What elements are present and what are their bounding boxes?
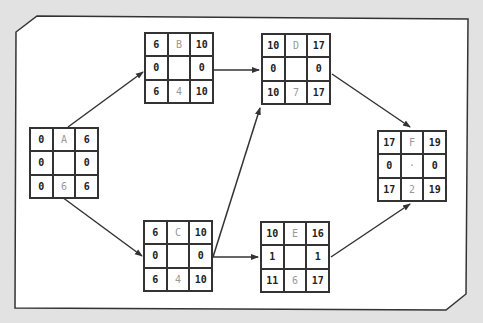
activity-name-cell: B [168, 33, 191, 56]
late-finish-cell: 10 [189, 268, 212, 291]
node-d: 10D170010717 [261, 33, 331, 105]
early-finish-cell: 10 [189, 221, 212, 244]
node-center-cell [167, 244, 190, 267]
late-finish-cell: 10 [190, 80, 213, 103]
duration-cell: 6 [284, 269, 307, 292]
arrow-e-to-f [331, 204, 410, 257]
early-finish-cell: 10 [190, 33, 213, 56]
network-diagram: 0A6000666B100064106C1000641010D170010717… [0, 0, 483, 323]
node-center-cell [285, 57, 308, 80]
late-start-cell: 11 [261, 269, 284, 292]
late-finish-cell: 17 [307, 81, 330, 104]
early-start-cell: 6 [145, 33, 168, 56]
total-slack-left-cell: 0 [145, 56, 168, 79]
late-start-cell: 0 [30, 175, 53, 198]
node-f: 17F190·017219 [377, 130, 447, 202]
node-b: 6B10006410 [144, 32, 214, 104]
node-center-cell: · [401, 154, 424, 177]
arrow-a-to-b [68, 72, 143, 127]
node-center-cell [284, 245, 307, 268]
total-slack-left-cell: 0 [378, 154, 401, 177]
early-start-cell: 10 [262, 34, 285, 57]
activity-name-cell: F [401, 131, 424, 154]
early-start-cell: 10 [261, 222, 284, 245]
duration-cell: 4 [167, 268, 190, 291]
early-finish-cell: 17 [307, 34, 330, 57]
node-center-cell [53, 151, 76, 174]
total-slack-right-cell: 0 [189, 244, 212, 267]
total-slack-right-cell: 0 [423, 154, 446, 177]
late-finish-cell: 19 [423, 178, 446, 201]
node-e: 10E161111617 [260, 221, 330, 293]
early-finish-cell: 6 [75, 128, 98, 151]
activity-name-cell: A [53, 128, 76, 151]
duration-cell: 7 [285, 81, 308, 104]
total-slack-right-cell: 0 [75, 151, 98, 174]
early-finish-cell: 16 [306, 222, 329, 245]
node-a: 0A600066 [29, 127, 99, 199]
node-center-cell [168, 56, 191, 79]
total-slack-right-cell: 1 [306, 245, 329, 268]
total-slack-right-cell: 0 [307, 57, 330, 80]
early-finish-cell: 19 [423, 131, 446, 154]
late-finish-cell: 17 [306, 269, 329, 292]
total-slack-left-cell: 0 [30, 151, 53, 174]
late-start-cell: 6 [144, 268, 167, 291]
node-c: 6C10006410 [143, 220, 213, 292]
total-slack-left-cell: 1 [261, 245, 284, 268]
duration-cell: 2 [401, 178, 424, 201]
activity-name-cell: C [167, 221, 190, 244]
duration-cell: 6 [53, 175, 76, 198]
early-start-cell: 6 [144, 221, 167, 244]
activity-name-cell: D [285, 34, 308, 57]
early-start-cell: 0 [30, 128, 53, 151]
late-start-cell: 17 [378, 178, 401, 201]
total-slack-left-cell: 0 [262, 57, 285, 80]
early-start-cell: 17 [378, 131, 401, 154]
arrow-a-to-c [62, 197, 142, 256]
total-slack-left-cell: 0 [144, 244, 167, 267]
late-finish-cell: 6 [75, 175, 98, 198]
arrow-c-to-d [213, 108, 260, 257]
late-start-cell: 6 [145, 80, 168, 103]
activity-name-cell: E [284, 222, 307, 245]
total-slack-right-cell: 0 [190, 56, 213, 79]
arrow-d-to-f [332, 74, 410, 127]
duration-cell: 4 [168, 80, 191, 103]
late-start-cell: 10 [262, 81, 285, 104]
